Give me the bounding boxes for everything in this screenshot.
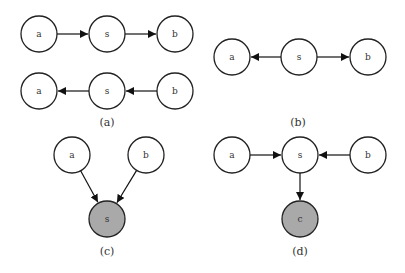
node-a: a [54,137,90,173]
node-label: s [105,86,110,96]
node-label: s [297,52,302,62]
node-label: c [297,214,302,224]
bayesian-network-figure: asbasb(a) asb(b) abs(c) asbc(d) [0,0,405,273]
node-b: b [350,137,386,173]
node-a: a [214,137,250,173]
node-label: a [69,150,75,160]
node-a: a [214,39,250,75]
node-label: a [229,150,235,160]
node-b: b [157,73,193,109]
node-s: s [281,39,317,75]
node-label: a [229,52,235,62]
node-label: a [36,29,42,39]
node-s-observed: s [89,201,125,237]
node-a: a [21,73,57,109]
node-a: a [21,16,57,52]
node-s: s [89,73,125,109]
node-b: b [157,16,193,52]
node-label: b [365,52,371,62]
panel-caption: (a) [99,116,114,129]
panel-a-chain: asbasb(a) [21,16,193,129]
node-label: a [36,86,42,96]
edge-b-to-s [117,170,137,202]
panel-caption: (d) [292,245,308,258]
panel-c-v-structure: abs(c) [54,137,164,258]
edge-a-to-s [81,171,98,203]
node-b: b [128,137,164,173]
panel-caption: (c) [100,245,115,258]
node-s: s [89,16,125,52]
node-label: b [172,86,178,96]
panel-b-common-cause: asb(b) [214,39,386,129]
panel-caption: (b) [290,116,306,129]
node-s: s [282,137,318,173]
node-label: b [143,150,149,160]
node-c-observed: c [282,201,318,237]
node-b: b [350,39,386,75]
node-label: s [105,214,110,224]
node-label: b [365,150,371,160]
node-label: s [298,150,303,160]
node-label: b [172,29,178,39]
panel-d-v-structure-descendant: asbc(d) [214,137,386,258]
node-label: s [105,29,110,39]
